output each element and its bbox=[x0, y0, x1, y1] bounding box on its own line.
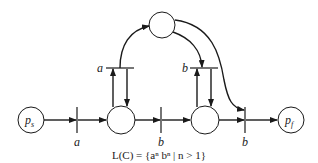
place-p1 bbox=[107, 106, 135, 134]
language-caption: L(C) = {aⁿ bⁿ | n > 1} bbox=[112, 149, 206, 162]
transition-loop-a-label: a bbox=[97, 61, 103, 75]
place-pf: pf bbox=[278, 107, 304, 133]
transition-t2-label: b bbox=[158, 135, 164, 149]
place-p2 bbox=[191, 106, 219, 134]
transition-t1-label: a bbox=[74, 135, 80, 149]
transition-t3-label: b bbox=[242, 135, 248, 149]
place-top bbox=[149, 12, 175, 38]
place-ps: ps bbox=[18, 107, 44, 133]
petri-net-diagram: ps pf a b b a b L(C) = {aⁿ bⁿ | bbox=[0, 0, 318, 163]
transition-loop-b-label: b bbox=[182, 61, 188, 75]
